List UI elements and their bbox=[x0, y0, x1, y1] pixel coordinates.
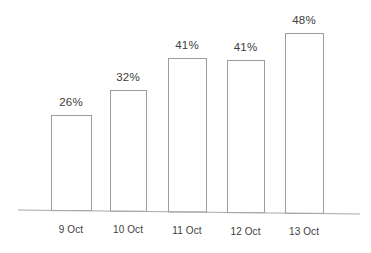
bar-11-oct bbox=[169, 59, 207, 212]
bar-chart: 26%32%41%41%48% 9 Oct10 Oct11 Oct12 Oct1… bbox=[0, 0, 371, 253]
bar-value-label: 48% bbox=[292, 14, 316, 26]
x-axis-tick-label: 9 Oct bbox=[59, 224, 83, 235]
bar-value-label: 32% bbox=[116, 71, 140, 83]
bar-12-oct bbox=[228, 61, 265, 213]
bar-value-label: 41% bbox=[175, 39, 199, 51]
x-axis-tick-label: 11 Oct bbox=[172, 225, 201, 236]
bar-value-label: 41% bbox=[234, 41, 258, 53]
bar-13-oct bbox=[286, 34, 324, 214]
chart-canvas bbox=[0, 0, 371, 253]
bar-9-oct bbox=[52, 116, 92, 211]
x-axis-tick-label: 13 Oct bbox=[289, 226, 319, 237]
x-axis-tick-label: 12 Oct bbox=[230, 226, 260, 237]
bars-group bbox=[52, 34, 324, 214]
x-axis-tick-label: 10 Oct bbox=[113, 224, 143, 235]
bar-value-label: 26% bbox=[59, 96, 83, 108]
bar-10-oct bbox=[111, 91, 147, 212]
